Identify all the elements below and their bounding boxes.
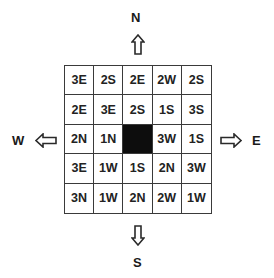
grid-cell: 1W <box>182 184 211 213</box>
east-arrow-icon <box>220 133 242 148</box>
north-label: N <box>131 11 140 24</box>
direction-grid: 3E 2S 2E 2W 2S 2E 3E 2S 1S 3S 2N 1N 3W 1… <box>64 65 212 214</box>
grid-cell: 1W <box>94 154 123 183</box>
south-label: S <box>133 256 142 269</box>
grid-cell: 1S <box>182 125 211 154</box>
grid-cell: 3W <box>153 125 182 154</box>
east-label: E <box>252 134 261 147</box>
grid-cell: 3E <box>65 66 94 95</box>
west-label: W <box>12 134 24 147</box>
grid-cell: 2S <box>94 66 123 95</box>
grid-cell: 3E <box>65 154 94 183</box>
grid-cell: 2W <box>153 184 182 213</box>
grid-cell: 2S <box>123 95 152 124</box>
grid-cell: 1W <box>94 184 123 213</box>
grid-cell: 2N <box>123 184 152 213</box>
grid-cell: 1S <box>153 95 182 124</box>
grid-cell: 2S <box>182 66 211 95</box>
grid-cell: 2E <box>123 66 152 95</box>
grid-cell: 2N <box>153 154 182 183</box>
south-arrow-icon <box>131 225 145 246</box>
grid-cell: 2W <box>153 66 182 95</box>
grid-cell: 3N <box>65 184 94 213</box>
black-target-cell <box>123 125 152 154</box>
grid-cell: 2N <box>65 125 94 154</box>
grid-cell: 1N <box>94 125 123 154</box>
grid-cell: 1S <box>123 154 152 183</box>
grid-cell: 3S <box>182 95 211 124</box>
grid-cell: 3W <box>182 154 211 183</box>
west-arrow-icon <box>35 133 57 148</box>
north-arrow-icon <box>131 34 145 55</box>
grid-cell: 2E <box>65 95 94 124</box>
grid-cell: 3E <box>94 95 123 124</box>
